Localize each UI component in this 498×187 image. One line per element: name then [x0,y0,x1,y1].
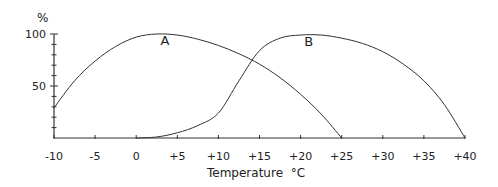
curve-label-a: A [161,33,170,48]
x-tick-label: +40 [453,150,476,163]
x-tick-label: -5 [90,150,101,163]
y-tick-label: 100 [25,28,46,41]
x-tick-label: -10 [45,150,63,163]
curve-label-b: B [304,34,313,49]
curves [54,34,465,138]
y-tick-label: 50 [32,80,46,93]
chart: 50100 -10-50+5+10+15+20+25+30+35+40 AB %… [0,0,498,187]
curve-a [54,34,342,138]
x-tick-label: +15 [248,150,271,163]
curve-b [136,35,465,138]
x-tick-label: +10 [207,150,230,163]
x-tick-label: +25 [330,150,353,163]
x-axis: -10-50+5+10+15+20+25+30+35+40 [45,135,477,163]
x-tick-label: 0 [133,150,140,163]
y-axis-unit-label: % [37,11,48,25]
x-tick-label: +35 [412,150,435,163]
x-tick-label: +30 [371,150,394,163]
x-axis-title: Temperature °C [206,166,305,180]
x-tick-label: +5 [169,150,185,163]
y-axis: 50100 [25,28,58,138]
x-tick-label: +20 [289,150,312,163]
